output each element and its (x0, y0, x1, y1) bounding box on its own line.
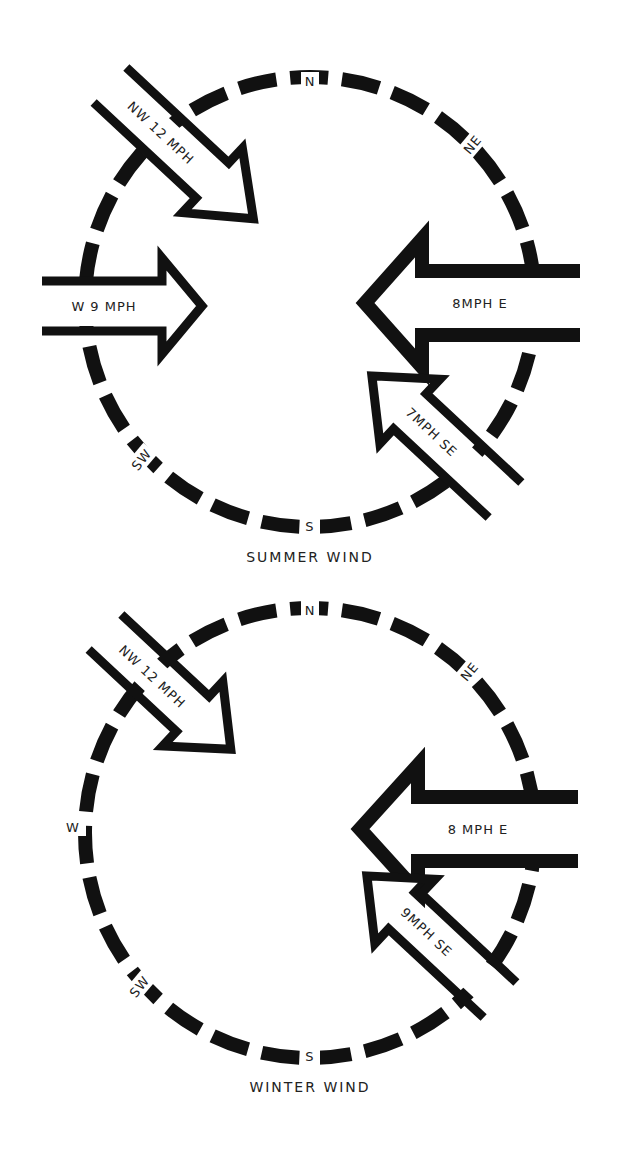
svg-text:S: S (305, 1049, 314, 1064)
summer-wind-diagram: N NE SW S NW 12 MPH W 9 MPH (42, 53, 580, 565)
svg-text:S: S (305, 519, 314, 534)
svg-text:W: W (66, 820, 80, 835)
winter-label-w: W (60, 818, 86, 836)
svg-text:8 MPH E: 8 MPH E (448, 822, 509, 837)
winter-label-s: S (300, 1047, 320, 1065)
winter-arrow-se: 9MPH SE (335, 842, 530, 1033)
summer-arrow-se: 7MPH SE (340, 342, 535, 533)
winter-label-n: N (301, 601, 319, 619)
summer-arrow-w: W 9 MPH (42, 258, 202, 354)
summer-label-n: N (301, 72, 319, 90)
svg-text:N: N (305, 603, 316, 618)
summer-arrow-e: 8MPH E (365, 239, 580, 367)
svg-text:8MPH E: 8MPH E (452, 296, 507, 311)
svg-text:W 9 MPH: W 9 MPH (71, 299, 136, 314)
svg-text:N: N (305, 74, 316, 89)
winter-caption: WINTER WIND (249, 1079, 370, 1095)
winter-wind-diagram: N NE W SW S NW 12 MPH 8 MPH E (60, 600, 578, 1095)
summer-label-s: S (300, 517, 320, 535)
summer-caption: SUMMER WIND (246, 549, 374, 565)
wind-diagrams: N NE SW S NW 12 MPH W 9 MPH (0, 0, 622, 1152)
